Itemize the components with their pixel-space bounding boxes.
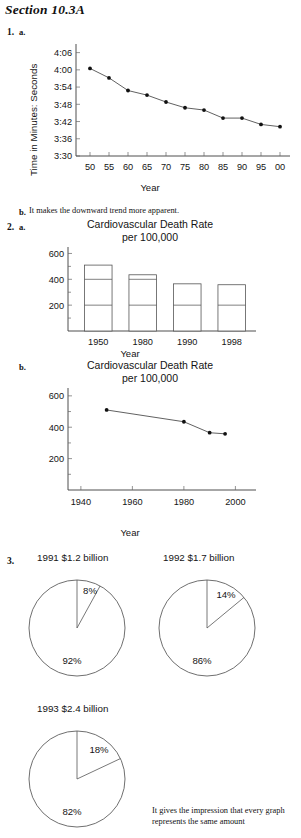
chart1-axes	[76, 44, 290, 156]
axis-tick-label: 1980	[133, 337, 153, 347]
axis-tick-label: 60	[123, 162, 133, 172]
answer-3: It gives the impression that every graph…	[152, 806, 301, 827]
chart2b-title: Cardiovascular Death Rate	[40, 359, 260, 371]
axis-tick-label: 4:00	[54, 65, 72, 75]
pie-slice-label-large: 86%	[192, 655, 212, 666]
question-number-2: 2.	[7, 222, 14, 232]
axis-tick-label: 65	[142, 162, 152, 172]
axis-tick-label: 400	[49, 423, 64, 433]
axis-tick-label: 1980	[174, 497, 194, 507]
axis-tick-label: 80	[199, 162, 209, 172]
question-part-2b: b.	[19, 362, 26, 372]
chart-cardio-line: 6004002001940196019802000	[34, 384, 264, 514]
axis-tick-label: 95	[256, 162, 266, 172]
axis-tick-label: 200	[49, 454, 64, 464]
axis-tick-label: 1940	[71, 497, 91, 507]
axis-tick-label: 1998	[222, 337, 242, 347]
pie-1993-title: 1993 $2.4 billion	[37, 703, 108, 714]
axis-tick-label: 2000	[225, 497, 245, 507]
worksheet-page: Section 10.3A 1. a. Time in Minutes: Sec…	[0, 0, 301, 838]
axis-tick-label: 600	[49, 391, 64, 401]
axis-tick-label: 50	[85, 162, 95, 172]
chart2a-bar	[129, 275, 157, 331]
pie-slice-label-small: 18%	[89, 744, 109, 755]
chart2b-subtitle: per 100,000	[40, 372, 260, 384]
chart2a-bar	[84, 265, 112, 331]
axis-tick-label: 4:06	[54, 48, 72, 58]
pie-slice-label-large: 92%	[62, 655, 82, 666]
chart2b-data-point	[105, 408, 109, 412]
axis-tick-label: 90	[237, 162, 247, 172]
chart1-data-point	[221, 116, 225, 120]
question-part-2a: a.	[19, 222, 25, 232]
chart1-data-point	[240, 116, 244, 120]
chart1-data-point	[259, 123, 263, 127]
axis-tick-label: 3:48	[54, 100, 72, 110]
chart-pie-1991: 8%92%	[20, 566, 150, 686]
chart2a-title: Cardiovascular Death Rate	[40, 218, 260, 230]
axis-tick-label: 55	[104, 162, 114, 172]
chart-pie-1992: 14%86%	[150, 566, 280, 686]
axis-tick-label: 600	[49, 249, 64, 259]
chart2b-data-point	[223, 432, 227, 436]
chart1-series-line	[90, 68, 280, 126]
axis-tick-label: 3:30	[54, 151, 72, 161]
pie-1991-title: 1991 $1.2 billion	[37, 552, 108, 563]
chart1-data-point	[278, 125, 282, 129]
axis-tick-label: 70	[161, 162, 171, 172]
axis-tick-label: 75	[180, 162, 190, 172]
axis-tick-label: 200	[49, 301, 64, 311]
axis-tick-label: 1990	[177, 337, 197, 347]
chart2a-subtitle: per 100,000	[40, 231, 260, 243]
question-part-1b: b.	[19, 207, 26, 217]
chart-pie-1993: 18%82%	[20, 717, 150, 838]
chart-mile-record: 4:064:003:543:483:423:363:30505560657075…	[32, 38, 297, 178]
chart2a-bar	[173, 284, 201, 331]
chart1-data-point	[107, 76, 111, 80]
chart2b-axes	[68, 388, 256, 490]
chart2b-data-point	[208, 431, 212, 435]
axis-tick-label: 400	[49, 275, 64, 285]
chart1-data-point	[88, 67, 92, 71]
axis-tick-label: 85	[218, 162, 228, 172]
chart1-data-point	[164, 100, 168, 104]
axis-tick-label: 1960	[122, 497, 142, 507]
chart1-x-axis-label: Year	[120, 182, 180, 193]
axis-tick-label: 1950	[88, 337, 108, 347]
chart2a-x-axis-label: Year	[100, 348, 160, 359]
axis-tick-label: 00	[275, 162, 285, 172]
chart2b-series-line	[107, 410, 225, 434]
chart2a-bar	[218, 285, 246, 331]
chart-cardio-bar: 6004002001950198019901998	[34, 243, 264, 353]
chart1-data-point	[145, 93, 149, 97]
page-title: Section 10.3A	[5, 2, 85, 18]
axis-tick-label: 3:42	[54, 117, 72, 127]
axis-tick-label: 3:54	[54, 82, 72, 92]
chart2b-data-point	[182, 420, 186, 424]
question-part-1a: a.	[19, 27, 25, 37]
pie-1992-title: 1992 $1.7 billion	[163, 552, 234, 563]
question-number-1: 1.	[7, 27, 14, 37]
chart1-data-point	[183, 106, 187, 110]
answer-1b: It makes the downward trend more apparen…	[29, 206, 259, 217]
chart1-data-point	[126, 89, 130, 93]
pie-slice-label-large: 82%	[62, 806, 82, 817]
chart1-data-point	[202, 108, 206, 112]
pie-slice-label-small: 8%	[83, 585, 97, 596]
pie-slice-label-small: 14%	[216, 589, 236, 600]
question-number-3: 3.	[7, 556, 14, 566]
chart2b-x-axis-label: Year	[100, 527, 160, 538]
axis-tick-label: 3:36	[54, 134, 72, 144]
